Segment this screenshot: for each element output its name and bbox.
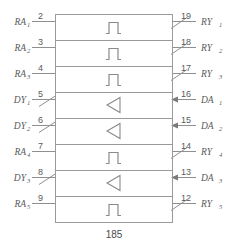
left-pin-name: DY [13, 121, 28, 131]
pulse-glyph-icon [106, 23, 121, 34]
right-pin-number: 13 [181, 167, 191, 177]
right-pin-name: RY [200, 199, 214, 209]
right-pin-subscript: 3 [218, 177, 223, 184]
pulse-glyph-icon [106, 205, 121, 216]
left-pin-number: 9 [38, 193, 43, 203]
left-pin-number: 5 [38, 89, 43, 99]
left-pin-number: 8 [38, 167, 43, 177]
right-pin-number: 12 [181, 193, 191, 203]
amplifier-triangle-icon [107, 98, 120, 113]
left-pin-name: RA [13, 69, 26, 79]
right-pin-name: RY [200, 43, 214, 53]
right-pin-number: 14 [181, 141, 191, 151]
left-pin-number: 7 [38, 141, 43, 151]
ic-diagram-canvas: 2RA119RY13RA218RY24RA317RY35DY116DA16DY2… [0, 0, 228, 245]
right-pin-subscript: 1 [219, 21, 222, 28]
right-pin-subscript: 5 [219, 203, 223, 210]
left-pin-subscript: 2 [27, 47, 31, 54]
amplifier-triangle-icon [107, 176, 120, 191]
right-pin-name: DA [200, 173, 214, 183]
right-pin-name: RY [200, 17, 214, 27]
left-pin-name: RA [13, 147, 26, 157]
right-pin-subscript: 2 [219, 47, 223, 54]
left-pin-subscript: 3 [26, 177, 31, 184]
left-pin-subscript: 1 [27, 21, 30, 28]
right-pin-name: DA [200, 121, 214, 131]
left-pin-number: 2 [38, 11, 43, 21]
right-pin-subscript: 4 [219, 151, 223, 158]
right-pin-name: RY [200, 147, 214, 157]
left-pin-name: RA [13, 199, 26, 209]
left-pin-name: DY [13, 95, 28, 105]
right-pin-name: RY [200, 69, 214, 79]
ic-outline-group [56, 15, 173, 223]
left-pin-subscript: 2 [27, 125, 31, 132]
amplifier-triangle-icon [107, 124, 120, 139]
right-pin-number: 17 [181, 63, 191, 73]
left-pin-name: RA [13, 17, 26, 27]
left-pin-subscript: 4 [27, 151, 31, 158]
pulse-glyph-icon [106, 153, 121, 164]
left-pin-name: DY [13, 173, 28, 183]
pulse-glyph-icon [106, 75, 121, 86]
left-pin-name: RA [13, 43, 26, 53]
right-pin-number: 18 [181, 37, 191, 47]
right-pin-number: 19 [181, 11, 191, 21]
right-pin-number: 15 [181, 115, 191, 125]
right-pin-name: DA [200, 95, 214, 105]
right-pin-number: 16 [181, 89, 191, 99]
left-pin-number: 4 [38, 63, 43, 73]
ic-block-diagram: 2RA119RY13RA218RY24RA317RY35DY116DA16DY2… [0, 0, 228, 245]
left-pin-subscript: 1 [27, 99, 30, 106]
pulse-glyph-icon [106, 49, 121, 60]
part-number-label: 185 [106, 229, 123, 240]
left-pin-number: 6 [38, 115, 43, 125]
left-pin-subscript: 3 [26, 73, 31, 80]
right-pin-subscript: 1 [219, 99, 222, 106]
right-pin-subscript: 2 [219, 125, 223, 132]
ic-rows-group: 2RA119RY13RA218RY24RA317RY35DY116DA16DY2… [13, 11, 223, 216]
left-pin-subscript: 5 [27, 203, 31, 210]
left-pin-number: 3 [38, 37, 43, 47]
right-pin-subscript: 3 [218, 73, 223, 80]
